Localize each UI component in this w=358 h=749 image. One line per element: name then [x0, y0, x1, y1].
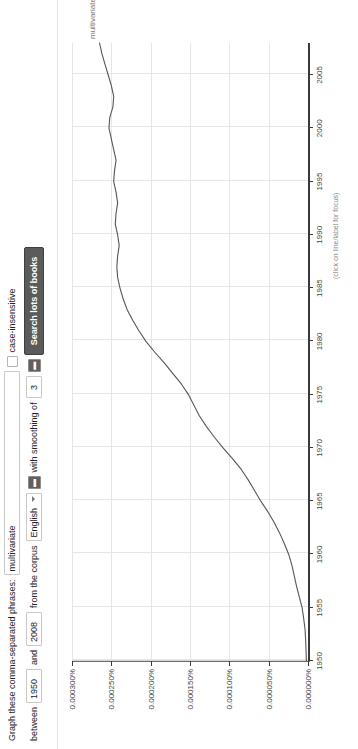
start-year-input[interactable]: 1950 [26, 669, 42, 703]
y-axis-line [72, 661, 310, 662]
ngram-query-form: Graph these comma-separated phrases: mul… [0, 0, 58, 749]
x-tick-label: 1980 [315, 332, 324, 350]
x-tick-label: 1990 [315, 226, 324, 244]
options-row: between 1950 and 2008 from the corpus En… [24, 247, 44, 741]
ngram-chart: multivariate (click on line/label for fo… [62, 0, 358, 749]
between-label: between [28, 707, 40, 741]
phrases-row: Graph these comma-separated phrases: mul… [4, 288, 20, 741]
x-tick-label: 1965 [315, 492, 324, 510]
x-tick [308, 607, 313, 608]
y-tick [190, 661, 191, 666]
phrases-label: Graph these comma-separated phrases: [6, 579, 18, 741]
end-year-input[interactable]: 2008 [26, 612, 42, 646]
x-tick-label: 2005 [315, 66, 324, 84]
series-line[interactable] [100, 43, 307, 661]
y-tick-label: 0.000200% [146, 669, 155, 749]
x-tick [308, 234, 313, 235]
x-tick-label: 1970 [315, 439, 324, 457]
y-tick-label: 0.000100% [225, 669, 234, 749]
y-tick-label: 0.000150% [186, 669, 195, 749]
y-tick-label: 0.000000% [304, 669, 313, 749]
x-tick [308, 74, 313, 75]
x-tick-label: 1985 [315, 279, 324, 297]
smoothing-increment-button[interactable]: ▬ [28, 359, 41, 372]
y-tick [229, 661, 230, 666]
x-tick-label: 2000 [315, 119, 324, 137]
x-tick [308, 394, 313, 395]
focus-hint: (click on line/label for focus) [332, 193, 339, 279]
x-tick-label: 1960 [315, 546, 324, 564]
y-tick-label: 0.000250% [107, 669, 116, 749]
corpus-select[interactable]: English [26, 493, 42, 541]
phrases-input[interactable]: multivariate [4, 371, 20, 575]
corpus-label: from the corpus [28, 545, 40, 608]
search-button[interactable]: Search lots of books [24, 247, 44, 356]
x-tick [308, 340, 313, 341]
and-label: and [28, 650, 40, 665]
series-layer[interactable] [72, 43, 308, 661]
rotated-page: Graph these comma-separated phrases: mul… [0, 0, 358, 749]
x-tick [308, 287, 313, 288]
smoothing-label: with smoothing of [28, 402, 40, 472]
x-tick [308, 500, 313, 501]
x-tick-label: 1955 [315, 599, 324, 617]
x-axis-line [308, 43, 310, 661]
y-tick-label: 0.000300% [68, 669, 77, 749]
chevron-down-icon [32, 496, 35, 502]
y-tick [151, 661, 152, 666]
y-tick [308, 661, 309, 666]
case-insensitive-label: case-insensitive [7, 288, 17, 352]
y-tick-label: 0.000050% [264, 669, 273, 749]
x-tick-label: 1975 [315, 386, 324, 404]
x-tick-label: 1950 [315, 652, 324, 670]
series-label[interactable]: multivariate [88, 0, 97, 39]
form-divider [57, 0, 58, 749]
y-tick [72, 661, 73, 666]
y-tick [269, 661, 270, 666]
smoothing-input[interactable]: 3 [26, 376, 42, 398]
smoothing-decrement-button[interactable]: ▬ [28, 476, 41, 489]
case-insensitive-checkbox[interactable] [7, 356, 18, 367]
y-tick [111, 661, 112, 666]
x-tick-label: 1995 [315, 173, 324, 191]
x-tick [308, 553, 313, 554]
x-tick [308, 447, 313, 448]
x-tick [308, 181, 313, 182]
x-tick [308, 127, 313, 128]
